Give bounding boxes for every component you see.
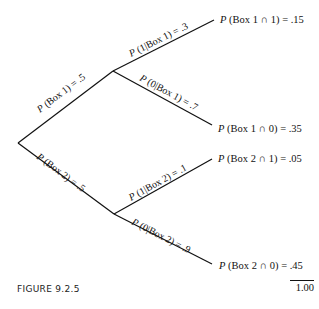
branch-label-zero-given-box1: P (0|Box 1) = .7 [137,72,200,114]
branch-line-one-given-box1 [113,20,214,71]
branch-label-zero-given-box2: P (0|Box 2) = .9 [129,216,193,256]
total-probability: 1.00 [290,280,314,293]
branch-line-zero-given-box1 [113,71,212,125]
leaf-label-box2-and-1: P (Box 2 ∩ 1) = .05 [217,153,302,165]
leaf-label-box1-and-1: P (Box 1 ∩ 1) = .15 [219,14,304,26]
branch-label-box2: P (Box 2) = .5 [33,150,87,194]
leaf-label-box2-and-0: P (Box 2 ∩ 0) = .45 [218,260,303,272]
figure-caption: FIGURE 9.2.5 [17,284,80,294]
branch-label-one-given-box2: P (1|Box 2) = .1 [126,162,189,204]
branch-line-one-given-box2 [114,159,212,214]
branch-label-one-given-box1: P (1|Box 1) = .3 [126,20,190,60]
branch-label-box1: P (Box 1) = .5 [34,71,88,116]
tree-lines [18,20,214,264]
probability-tree-diagram: P (Box 1) = .5 P (Box 2) = .5 P (1|Box 1… [0,0,319,309]
leaf-label-box1-and-0: P (Box 1 ∩ 0) = .35 [217,123,302,135]
